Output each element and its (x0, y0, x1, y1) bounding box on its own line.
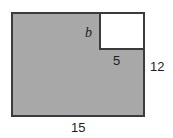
notch-rectangle-shape (99, 12, 145, 50)
label-side-12: 12 (150, 60, 164, 73)
label-b: b (85, 26, 92, 40)
geometry-figure-canvas: b 5 12 15 (0, 0, 173, 138)
label-side-5: 5 (113, 54, 120, 67)
label-side-15: 15 (71, 121, 85, 134)
